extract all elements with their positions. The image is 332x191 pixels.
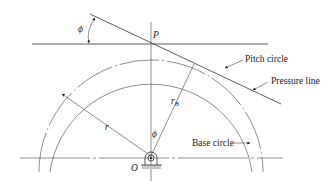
gear-geometry-diagram: ϕ P Pitch circle Pressure line r rB ϕ O …	[0, 0, 332, 191]
rb-label: rB	[171, 96, 179, 107]
phi-center-label: ϕ	[152, 129, 157, 139]
phi-angle-arc	[88, 18, 95, 43]
base-radius-line	[151, 64, 194, 156]
pitch-circle-label: Pitch circle	[245, 54, 288, 64]
point-p-label: P	[152, 30, 159, 40]
pitch-circle-leader	[225, 60, 243, 68]
pressure-line-leader	[253, 82, 268, 90]
base-circle-label: Base circle	[192, 138, 234, 148]
rb-label-sub: B	[175, 100, 179, 107]
origin-o-label: O	[131, 163, 138, 173]
r-label: r	[105, 122, 109, 132]
phi-top-label: ϕ	[78, 24, 83, 34]
pressure-line-label: Pressure line	[271, 76, 320, 86]
